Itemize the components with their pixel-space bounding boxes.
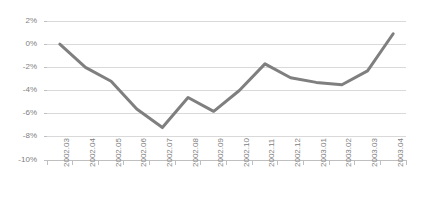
chart-plot-area (0, 0, 422, 211)
x-axis-tick-label: 2002.12 (294, 138, 302, 167)
x-axis-tick-label: 2002.09 (217, 138, 225, 167)
y-axis-tick-label: -6% (3, 109, 37, 117)
x-axis-tick-label: 2003.04 (397, 138, 405, 167)
x-axis-tick-label: 2003.01 (320, 138, 328, 167)
x-axis-tick-label: 2003.02 (345, 138, 353, 167)
y-axis-tick-label: -8% (3, 132, 37, 140)
x-axis-tick-label: 2002.06 (140, 138, 148, 167)
x-axis-tick-label: 2002.11 (268, 139, 276, 167)
y-axis-tick-label: -10% (3, 156, 37, 164)
x-axis-tick-label: 2002.10 (243, 138, 251, 167)
x-axis-tick-label: 2002.03 (63, 138, 71, 167)
y-axis-tick-label: 0% (3, 40, 37, 48)
y-axis-tick-label: -2% (3, 63, 37, 71)
y-axis-tick-label: 2% (3, 17, 37, 25)
x-axis-tick-label: 2002.07 (166, 138, 174, 167)
y-axis-tick-label: -4% (3, 86, 37, 94)
x-axis-tick-label: 2002.05 (115, 138, 123, 167)
line-chart: 2%0%-2%-4%-6%-8%-10% 2002.032002.042002.… (0, 0, 422, 211)
x-axis-tick-label: 2003.03 (371, 138, 379, 167)
x-axis-tick-label: 2002.04 (89, 138, 97, 167)
x-axis-tick-label: 2002.08 (192, 138, 200, 167)
